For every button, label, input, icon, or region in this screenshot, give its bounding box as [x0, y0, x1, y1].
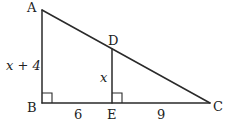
measure-label-ec: 9 — [157, 107, 165, 121]
similar-triangles-diagram: A B D E C x + 4 x 6 9 — [0, 0, 226, 121]
right-angle-marker-e — [112, 93, 122, 103]
vertex-label-b: B — [27, 100, 37, 115]
vertex-label-d: D — [108, 33, 118, 48]
segment-ac — [42, 10, 210, 103]
measure-label-be: 6 — [74, 107, 82, 121]
vertex-label-a: A — [26, 0, 37, 15]
vertex-label-e: E — [107, 107, 117, 121]
vertex-label-c: C — [213, 99, 223, 114]
measure-label-ab: x + 4 — [6, 58, 41, 73]
right-angle-marker-b — [42, 93, 52, 103]
measure-label-de: x — [100, 70, 108, 85]
